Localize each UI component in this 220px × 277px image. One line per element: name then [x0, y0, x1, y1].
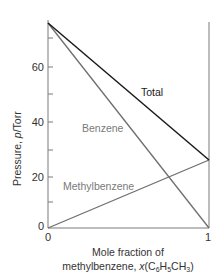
x-axis-title-paren-close: ): [190, 260, 194, 272]
x-tick-label-1: 1: [205, 231, 211, 243]
series-line-total: [48, 23, 209, 160]
y-ticks: [48, 38, 53, 202]
series-label-methylbenzene: Methylbenzene: [63, 180, 134, 192]
y-tick-label-60: 60: [32, 61, 44, 73]
y-tick-label-40: 40: [32, 116, 44, 128]
y-tick-label-20: 20: [32, 171, 44, 183]
series-line-benzene: [48, 23, 209, 228]
y-axis-title: Pressure, p/Torr: [11, 111, 23, 186]
series-line-methylbenzene: [48, 160, 209, 228]
x-axis-title-h: H: [160, 260, 168, 272]
x-axis-title-ch: CH: [171, 260, 186, 272]
x-axis-title-paren-open: (C: [145, 260, 156, 272]
y-tick-label-0: 0: [38, 220, 44, 232]
x-axis-title-line1: Mole fraction of: [92, 246, 164, 258]
x-axis-title-line2: methylbenzene, x(C6H5CH3): [62, 260, 193, 273]
x-axis-title-prefix: methylbenzene,: [62, 260, 139, 272]
series-label-total: Total: [141, 86, 163, 98]
series-label-benzene: Benzene: [82, 122, 124, 134]
vapor-pressure-chart: 60 40 20 0 0 1 Total Benzene Methylbenze…: [0, 0, 220, 277]
x-tick-label-0: 0: [45, 231, 51, 243]
y-axis-title-unit: /Torr: [11, 111, 23, 133]
y-axis-title-prefix: Pressure,: [11, 138, 23, 186]
